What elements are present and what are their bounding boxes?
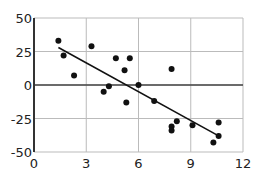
y-tick-label: 50 [15,11,32,26]
y-tick-label: 0 [24,78,32,93]
data-point [189,122,195,128]
scatter-chart: 50250-25-50 036912 [0,0,261,177]
data-point [216,120,222,126]
data-point [136,82,142,88]
x-tick-label: 12 [235,156,252,171]
x-tick-labels: 036912 [30,156,251,171]
data-point [210,140,216,146]
x-tick-label: 6 [134,156,142,171]
x-tick-label: 3 [82,156,90,171]
data-point [61,53,67,59]
data-point [174,118,180,124]
data-point [127,55,133,61]
data-point [216,133,222,139]
data-point [101,89,107,95]
y-tick-label: -50 [11,145,32,160]
data-point [106,83,112,89]
y-tick-label: -25 [11,112,32,127]
data-point [55,38,61,44]
y-tick-labels: 50250-25-50 [11,11,32,160]
data-point [169,128,175,134]
x-tick-label: 0 [30,156,38,171]
data-point [88,43,94,49]
x-tick-label: 9 [187,156,195,171]
data-point [123,99,129,105]
data-point [113,55,119,61]
data-point [169,66,175,72]
data-point [71,73,77,79]
data-point [151,98,157,104]
data-point [122,67,128,73]
y-tick-label: 25 [15,45,32,60]
